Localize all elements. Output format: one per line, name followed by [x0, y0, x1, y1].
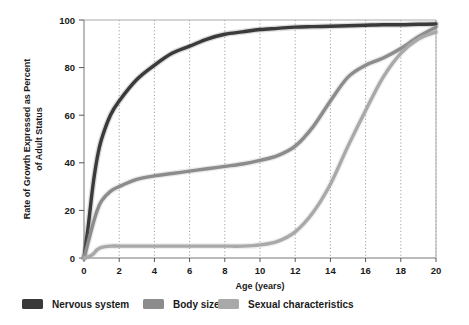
x-tick-label: 2: [117, 265, 122, 276]
x-tick-label: 8: [222, 265, 227, 276]
x-tick-label: 6: [187, 265, 192, 276]
y-tick-label: 20: [64, 205, 75, 216]
x-axis-ticks: [84, 258, 436, 262]
legend-swatch: [22, 299, 43, 309]
legend-swatch: [143, 299, 164, 309]
x-tick-label: 4: [152, 265, 158, 276]
growth-curves-figure: 020406080100 02468101214161820 Rate of G…: [0, 0, 469, 325]
legend-label: Body size: [173, 299, 220, 310]
x-axis-tick-labels: 02468101214161820: [81, 265, 441, 276]
y-axis-title-line2: of Adult Status: [34, 107, 44, 171]
legend-swatch: [218, 299, 239, 309]
x-tick-label: 20: [431, 265, 442, 276]
legend-label: Sexual characteristics: [248, 299, 354, 310]
y-axis-tick-labels: 020406080100: [59, 15, 75, 264]
chart-canvas: 020406080100 02468101214161820 Rate of G…: [0, 0, 469, 325]
x-tick-label: 14: [325, 265, 336, 276]
y-tick-label: 60: [64, 110, 75, 121]
y-tick-label: 0: [70, 253, 75, 264]
y-tick-label: 80: [64, 62, 75, 73]
y-tick-label: 40: [64, 157, 75, 168]
x-axis-title: Age (years): [235, 281, 284, 291]
y-axis-ticks: [79, 20, 84, 258]
y-axis-title-line1: Rate of Growth Expressed as Percent: [22, 59, 32, 220]
x-tick-label: 18: [396, 265, 407, 276]
x-tick-label: 0: [81, 265, 86, 276]
legend-label: Nervous system: [52, 299, 129, 310]
chart-legend: Nervous systemBody sizeSexual characteri…: [22, 299, 354, 310]
x-tick-label: 16: [360, 265, 371, 276]
x-tick-label: 12: [290, 265, 301, 276]
y-tick-label: 100: [59, 15, 75, 26]
x-tick-label: 10: [255, 265, 266, 276]
